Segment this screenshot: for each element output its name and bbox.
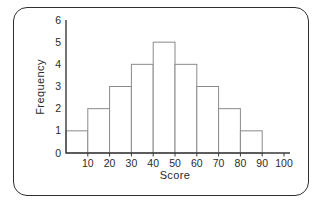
y-axis-label: Frequency <box>34 59 46 115</box>
histogram-bar <box>219 109 241 153</box>
y-tick-label: 5 <box>55 36 61 48</box>
x-tick-label: 90 <box>256 157 268 169</box>
x-tick-label: 60 <box>191 157 203 169</box>
histogram-bar <box>153 42 175 153</box>
y-tick-label: 6 <box>55 14 61 26</box>
histogram-bar <box>110 87 132 154</box>
x-tick-label: 20 <box>104 157 116 169</box>
y-tick-label: 0 <box>55 147 61 159</box>
y-tick-label: 3 <box>55 80 61 92</box>
y-tick-label: 1 <box>55 124 61 136</box>
x-axis-label: Score <box>66 169 284 181</box>
x-tick-label: 70 <box>213 157 225 169</box>
histogram-bar <box>66 131 88 153</box>
histogram-bar <box>131 64 153 153</box>
y-tick-label: 4 <box>55 58 61 70</box>
histogram-bar <box>240 131 262 153</box>
x-tick-label: 50 <box>169 157 181 169</box>
x-tick-label: 30 <box>126 157 138 169</box>
histogram-bar <box>88 109 110 153</box>
histogram-bar <box>175 64 197 153</box>
y-tick-label: 2 <box>55 102 61 114</box>
x-tick-label: 10 <box>82 157 94 169</box>
x-tick-label: 100 <box>275 157 293 169</box>
histogram-bar <box>197 87 219 154</box>
x-tick-label: 80 <box>235 157 247 169</box>
x-tick-label: 40 <box>147 157 159 169</box>
